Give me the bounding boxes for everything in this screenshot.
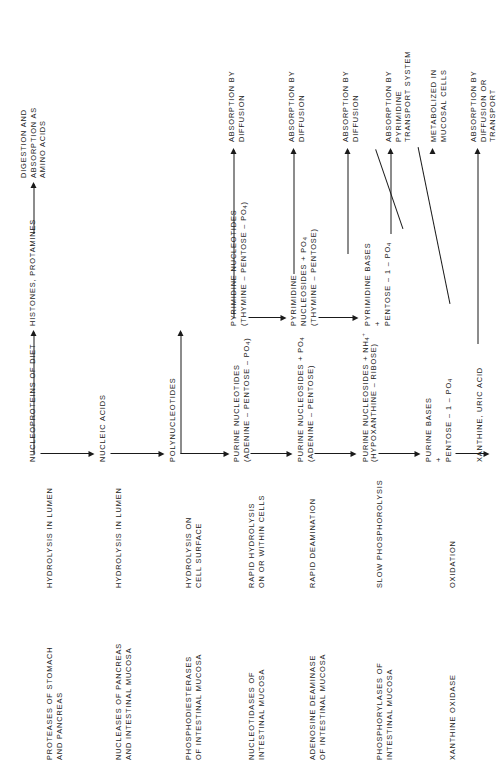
connector-nucleic-acids-to-polynucleotides (110, 453, 160, 454)
arrowhead-purine-nucleosides (286, 451, 292, 457)
connector-polynucleotides-to-pyrimidine-nucleotides (180, 332, 181, 454)
arrowhead-pyrimidine-bases (352, 315, 358, 321)
connector-xanthine-to-absorption (477, 150, 478, 344)
metabolite-nucleoproteins-of-diet: NUCLEOPROTEINS OF DIET (27, 344, 37, 462)
enzyme-label-phosphodiesterases: PHOSPHODIESTERASES OF INTESTINAL MUCOSA (183, 654, 202, 760)
arrowhead-absorption-diffusion-or-transport (474, 148, 480, 154)
arrowhead-purine-nucleosides-nh4 (350, 451, 356, 457)
enzyme-label-nucleotidases: NUCLEOTIDASES OF INTESTINAL MUCOSA (246, 669, 265, 760)
connector-purine-nucleosides-to-nh4 (314, 453, 352, 454)
arrowhead-histones (30, 330, 36, 336)
process-label-slow-phosphorolysis: SLOW PHOSPHOROLYSIS (374, 480, 384, 588)
fate-absorption-diffusion-1: ABSORPTION BY DIFFUSION (226, 71, 245, 142)
metabolite-pyrimidine-bases-line1: PYRIMIDINE BASES (362, 243, 372, 326)
enzyme-label-adenosine-deaminase: ADENOSINE DEAMINASE OF INTESTINAL MUCOSA (307, 654, 326, 760)
connector-nucleoproteins-to-nucleic-acids (40, 453, 90, 454)
metabolite-purine-nucleotides-line1: PURINE NUCLEOTIDES (231, 364, 241, 462)
arrowhead-amino-acids (30, 182, 36, 188)
metabolite-pyrimidine-nucleosides-line1: PYRIMIDINE (288, 274, 298, 326)
arrowhead-purine-bases (414, 451, 420, 457)
metabolite-pyrimidine-nucleotides-line2: (THYMINE – PENTOSE – PO4) (238, 201, 250, 326)
arrowhead-absorption-pyrimidine-transport (387, 148, 393, 154)
fate-absorption-diffusion-or-transport: ABSORPTION BY DIFFUSION OR TRANSPORT (468, 71, 497, 142)
connector-pyrimidine-nucleotides-to-nucleosides (248, 317, 282, 318)
fate-absorption-diffusion-3: ABSORPTION BY DIFFUSION (340, 71, 359, 142)
metabolite-pyrimidine-nucleosides-line3: (THYMINE – PENTOSE) (308, 228, 318, 326)
metabolite-xanthine-uric-acid: XANTHINE, URIC ACID (474, 367, 484, 462)
arrowhead-polynucleotides (158, 451, 164, 457)
metabolite-purine-nucleosides-nh4-line2: (HYPOXANTHINE – RIBOSE) (368, 343, 378, 462)
metabolite-polynucleotides: POLYNUCLEOTIDES (167, 378, 177, 462)
fate-metabolized-mucosal-cells: METABOLIZED IN MUCOSAL CELLS (428, 69, 447, 142)
connector-polynucleotides-to-purine-nucleotides (180, 453, 225, 454)
arrowhead-metabolized-mucosal-cells (429, 148, 435, 154)
connector-pyrimidine-pentose-to-metabolized (375, 149, 403, 229)
fate-absorption-diffusion-2: ABSORPTION BY DIFFUSION (286, 71, 305, 142)
fate-digestion-absorption-amino-acids: DIGESTION AND ABSORPTION AS AMINO ACIDS (18, 107, 47, 178)
connector-purine-nucleosides-to-bases (378, 453, 416, 454)
arrowhead-pyrimidine-nucleosides (280, 315, 286, 321)
connector-purine-bases-to-xanthine (455, 453, 485, 454)
metabolite-purine-bases-line1: PURINE BASES (423, 397, 433, 462)
connector-histones-to-amino-acids (33, 184, 34, 234)
fate-absorption-pyrimidine-transport: ABSORPTION BY PYRIMIDINE TRANSPORT SYSTE… (383, 51, 412, 142)
connector-nucleoproteins-to-histones (33, 332, 34, 454)
process-label-oxidation: OXIDATION (447, 540, 457, 588)
process-label-hydrolysis-lumen-1: HYDROLYSIS IN LUMEN (44, 487, 54, 588)
connector-pyrimidine-nucleosides-to-absorption (293, 150, 294, 274)
enzyme-label-nucleases: NUCLEASES OF PANCREAS AND INTESTINAL MUC… (113, 643, 132, 760)
arrowhead-xanthine-uric-acid (483, 451, 489, 457)
arrowhead-pyrimidine-nucleotides (177, 330, 183, 336)
metabolite-purine-nucleosides-line2: (ADENINE – PENTOSE) (305, 365, 315, 462)
enzyme-label-xanthine-oxidase: XANTHINE OXIDASE (447, 674, 457, 760)
arrowhead-absorption-2 (290, 148, 296, 154)
pathway-diagram: PROTEASES OF STOMACH AND PANCREAS NUCLEA… (0, 0, 501, 774)
metabolite-nucleic-acids: NUCLEIC ACIDS (97, 394, 107, 462)
process-label-rapid-deamination: RAPID DEAMINATION (307, 498, 317, 588)
enzyme-label-phosphorylases: PHOSPHORYLASES OF INTESTINAL MUCOSA (374, 662, 393, 760)
enzyme-label-proteases: PROTEASES OF STOMACH AND PANCREAS (44, 647, 63, 760)
metabolite-pyrimidine-bases-line2: + (372, 321, 382, 326)
arrowhead-purine-nucleotides (223, 451, 229, 457)
arrowhead-absorption-1 (230, 148, 236, 154)
connector-purine-nucleotides-to-nucleosides (250, 453, 288, 454)
connector-pyrimidine-nucleotides-to-absorption (233, 150, 234, 318)
process-label-hydrolysis-lumen-2: HYDROLYSIS IN LUMEN (113, 487, 123, 588)
connector-pyrimidine-nucleosides-to-bases (318, 317, 354, 318)
process-label-hydrolysis-cell-surface: HYDROLYSIS ON CELL SURFACE (183, 517, 202, 588)
arrowhead-absorption-3 (344, 148, 350, 154)
metabolite-pyrimidine-bases-line3: PENTOSE – 1 – PO4 (382, 242, 394, 326)
connector-purine-nucleosides-to-absorption (347, 150, 348, 254)
metabolite-purine-bases-line2: + (433, 457, 443, 462)
metabolite-purine-nucleotides-line2: (ADENINE – PENTOSE – PO4) (241, 338, 253, 462)
connector-purine-bases-to-metabolized (417, 147, 450, 304)
metabolite-histones-protamines: HISTONES, PROTAMINES (27, 219, 37, 326)
metabolite-purine-bases-line3: PENTOSE – 1 – PO4 (443, 378, 455, 462)
process-label-rapid-hydrolysis: RAPID HYDROLYSIS ON OR WITHIN CELLS (246, 495, 265, 588)
arrowhead-nucleic-acids (88, 451, 94, 457)
